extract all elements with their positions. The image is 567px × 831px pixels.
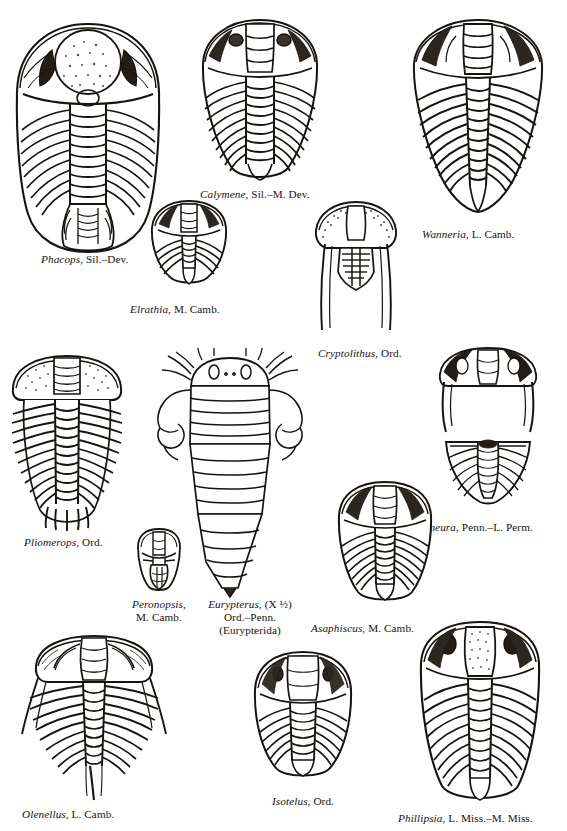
age-value-cryptolithus: Ord. xyxy=(381,347,402,359)
age-value-elrathia: M. Camb. xyxy=(174,303,220,315)
genus-isotelus: Isotelus xyxy=(272,795,308,807)
phillipsia-drawing xyxy=(412,618,548,808)
genus-wanneria: Wanneria xyxy=(422,228,466,240)
age-value-phillipsia: L. Miss.–M. Miss. xyxy=(448,812,532,824)
wanneria-drawing xyxy=(408,16,548,216)
age-value-isotelus: Ord. xyxy=(313,795,334,807)
genus-pliomerops: Pliomerops xyxy=(24,536,76,548)
caption-cryptolithus: Cryptolithus, Ord. xyxy=(318,347,402,360)
figure-elrathia xyxy=(145,198,233,288)
caption-asaphiscus: Asaphiscus, M. Camb. xyxy=(311,622,414,635)
genus-olenellus: Olenellus xyxy=(22,808,66,820)
age-peronopsis: M. Camb. xyxy=(136,611,182,623)
asaphiscus-drawing xyxy=(330,478,440,606)
figure-ameura xyxy=(428,344,548,510)
illustration-plate: Phacops, Sil.–Dev. xyxy=(0,0,567,831)
age-value-pliomerops: Ord. xyxy=(82,536,103,548)
figure-pliomerops xyxy=(6,352,128,532)
genus-eurypterus: Eurypterus xyxy=(208,598,259,610)
figure-wanneria xyxy=(408,16,548,216)
age-value-olenellus: L. Camb. xyxy=(72,808,115,820)
caption-isotelus: Isotelus, Ord. xyxy=(248,795,358,808)
cryptolithus-drawing xyxy=(308,198,404,338)
genus-phacops: Phacops xyxy=(41,253,80,265)
pliomerops-drawing xyxy=(6,352,128,532)
caption-eurypterus: Eurypterus, (X ½) Ord.–Penn. (Eurypterid… xyxy=(191,598,309,638)
genus-phillipsia: Phillipsia xyxy=(398,812,443,824)
age-value-asaphiscus: M. Camb. xyxy=(368,622,414,634)
figure-phillipsia xyxy=(412,618,548,808)
olenellus-drawing xyxy=(10,630,178,802)
isotelus-drawing xyxy=(248,648,358,782)
figure-isotelus xyxy=(248,648,358,782)
genus-peronopsis: Peronopsis, xyxy=(132,598,186,610)
genus-asaphiscus: Asaphiscus xyxy=(311,622,362,634)
caption-phillipsia: Phillipsia, L. Miss.–M. Miss. xyxy=(398,812,533,825)
genus-elrathia: Elrathia xyxy=(130,303,168,315)
caption-wanneria: Wanneria, L. Camb. xyxy=(422,228,514,241)
calymene-drawing xyxy=(196,16,324,184)
elrathia-drawing xyxy=(145,198,233,288)
caption-elrathia: Elrathia, M. Camb. xyxy=(130,303,220,316)
figure-cryptolithus xyxy=(308,198,404,338)
figure-eurypterus xyxy=(150,348,310,598)
eurypterus-drawing xyxy=(150,348,310,598)
age-eurypterus: Ord.–Penn. xyxy=(224,611,276,623)
figure-calymene xyxy=(196,16,324,184)
age-value-calymene: Sil.–M. Dev. xyxy=(251,188,309,200)
ameura-drawing xyxy=(428,344,548,510)
genus-cryptolithus: Cryptolithus xyxy=(318,347,375,359)
phacops-drawing xyxy=(8,18,168,258)
age-value-phacops: Sil.–Dev. xyxy=(86,253,128,265)
figure-olenellus xyxy=(10,630,178,802)
figure-phacops xyxy=(8,18,168,258)
caption-phacops: Phacops, Sil.–Dev. xyxy=(41,253,128,266)
age-value-ameura: Penn.–L. Perm. xyxy=(462,521,533,533)
caption-pliomerops: Pliomerops, Ord. xyxy=(24,536,103,549)
group-eurypterus: (Eurypterida) xyxy=(219,624,281,636)
figure-asaphiscus xyxy=(330,478,440,606)
caption-olenellus: Olenellus, L. Camb. xyxy=(22,808,114,821)
caption-peronopsis: Peronopsis, M. Camb. xyxy=(124,598,194,624)
magnification-eurypterus: (X ½) xyxy=(265,598,292,610)
age-value-wanneria: L. Camb. xyxy=(472,228,515,240)
